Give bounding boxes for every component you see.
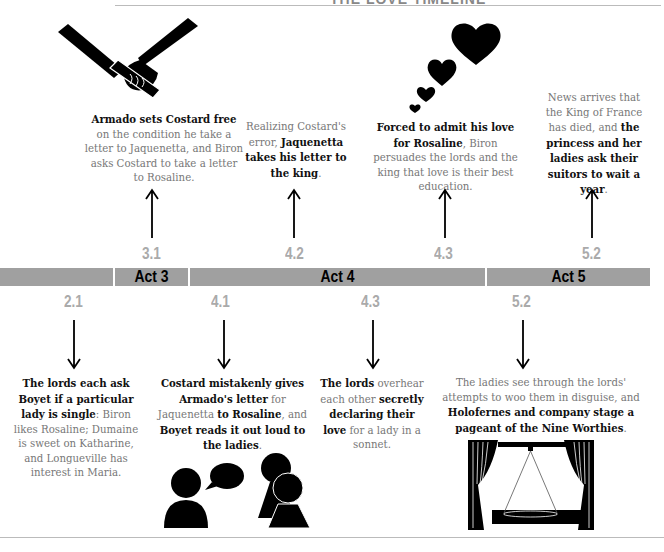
- emphasis-text: Armado sets Costard free: [91, 113, 236, 125]
- arrow-up-icon: [584, 188, 600, 240]
- event-text-5-2-top: News arrives that the King of France has…: [538, 91, 650, 198]
- act-label: Act 5: [502, 268, 636, 286]
- timeline-bar-act-4: Act 4: [190, 268, 485, 286]
- body-text: .: [623, 423, 626, 434]
- event-text-3-1: Armado sets Costard free on the conditio…: [84, 112, 244, 186]
- body-text: for a lady in a sonnet.: [346, 425, 421, 451]
- stage-icon: [468, 440, 594, 530]
- arrow-up-icon: [286, 188, 302, 240]
- scene-number-4-1: 4.1: [211, 292, 230, 312]
- scene-number-2-1: 2.1: [64, 292, 83, 312]
- body-text: on the condition he take a letter to Jaq…: [85, 129, 243, 184]
- body-text: The ladies see through the lords' attemp…: [442, 377, 640, 403]
- act-label: Act 4: [217, 268, 459, 286]
- scene-number-5-2-top: 5.2: [582, 244, 601, 264]
- timeline-bar-act-2: [0, 268, 113, 286]
- act-label: Act 3: [122, 268, 182, 286]
- arrow-down-icon: [216, 318, 232, 370]
- body-text: .: [318, 168, 321, 179]
- scene-number-4-3-top: 4.3: [434, 244, 453, 264]
- arrow-down-icon: [66, 318, 82, 370]
- emphasis-text: Boyet reads it out loud to the ladies: [160, 424, 306, 452]
- scene-number-5-2-bottom: 5.2: [512, 292, 531, 312]
- arrow-up-icon: [437, 188, 453, 240]
- hearts-icon: [404, 18, 504, 118]
- arrow-down-icon: [515, 318, 531, 370]
- arrow-down-icon: [365, 318, 381, 370]
- event-text-4-3-top: Forced to admit his love for Rosaline, B…: [368, 120, 523, 195]
- scene-number-4-2: 4.2: [285, 244, 304, 264]
- body-text: , and: [282, 409, 308, 420]
- top-divider: [115, 5, 661, 6]
- timeline-bar-act-3: Act 3: [115, 268, 188, 286]
- baton-hand-icon: [48, 18, 198, 98]
- conversation-icon: [160, 448, 310, 528]
- bottom-divider: [0, 537, 664, 538]
- timeline-bar-act-5: Act 5: [487, 268, 650, 286]
- event-text-4-2: Realizing Costard's error, Jaquenetta ta…: [236, 120, 356, 181]
- emphasis-text: to Rosaline: [217, 408, 281, 420]
- scene-number-3-1: 3.1: [142, 244, 161, 264]
- event-text-5-2-bottom: The ladies see through the lords' attemp…: [432, 376, 650, 436]
- event-text-4-1: Costard mistakenly gives Armado's letter…: [150, 376, 315, 454]
- event-text-2-1: The lords each ask Boyet if a particular…: [12, 376, 140, 481]
- event-text-4-3-bottom: The lords overhear each other secretly d…: [316, 376, 428, 453]
- arrow-up-icon: [144, 188, 160, 240]
- emphasis-text: Holofernes and company stage a pageant o…: [448, 406, 634, 434]
- emphasis-text: The lords: [320, 377, 374, 389]
- body-text: .: [605, 184, 608, 195]
- scene-number-4-3-bottom: 4.3: [361, 292, 380, 312]
